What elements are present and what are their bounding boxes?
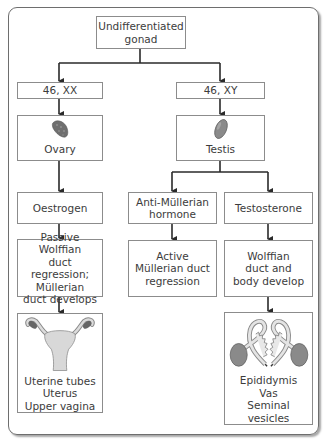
ovary-label: Ovary: [44, 143, 75, 156]
anti-mullerian-hormone-box: Anti-Müllerian hormone: [128, 192, 217, 224]
karyotype-xx-box: 46, XX: [17, 82, 103, 99]
ovary-box: Ovary: [17, 115, 103, 161]
testosterone-label: Testosterone: [235, 202, 302, 215]
female-structures-box: Uterine tubes Uterus Upper vagina: [17, 313, 103, 413]
male-structures-label: Epididymis Vas Seminal vesicles: [225, 374, 312, 424]
undifferentiated-gonad-box: Undifferentiated gonad: [96, 16, 186, 49]
passive-wolffian-box: Passive Wolffian duct regression; Müller…: [17, 239, 103, 297]
ovary-icon: [49, 118, 71, 140]
active-mullerian-regression-label: Active Müllerian duct regression: [135, 250, 210, 288]
male-structures-box: Epididymis Vas Seminal vesicles: [224, 312, 313, 425]
testis-icon: [211, 117, 231, 141]
female-structures-label: Uterine tubes Uterus Upper vagina: [24, 375, 95, 413]
passive-wolffian-label: Passive Wolffian duct regression; Müller…: [18, 231, 102, 306]
oestrogen-label: Oestrogen: [33, 202, 88, 215]
active-mullerian-regression-box: Active Müllerian duct regression: [128, 240, 217, 297]
oestrogen-box: Oestrogen: [17, 192, 103, 224]
undifferentiated-gonad-label: Undifferentiated gonad: [98, 20, 184, 45]
testis-label: Testis: [206, 143, 235, 156]
karyotype-xy-box: 46, XY: [176, 82, 265, 99]
karyotype-xx-label: 46, XX: [43, 84, 77, 97]
testosterone-box: Testosterone: [224, 192, 313, 224]
karyotype-xy-label: 46, XY: [204, 84, 238, 97]
wolffian-develop-label: Wolffian duct and body develop: [233, 250, 304, 288]
uterus-illustration: [21, 317, 99, 372]
anti-mullerian-hormone-label: Anti-Müllerian hormone: [136, 196, 209, 221]
wolffian-develop-box: Wolffian duct and body develop: [224, 240, 313, 297]
testis-box: Testis: [176, 115, 265, 161]
male-ducts-illustration: [227, 317, 311, 370]
